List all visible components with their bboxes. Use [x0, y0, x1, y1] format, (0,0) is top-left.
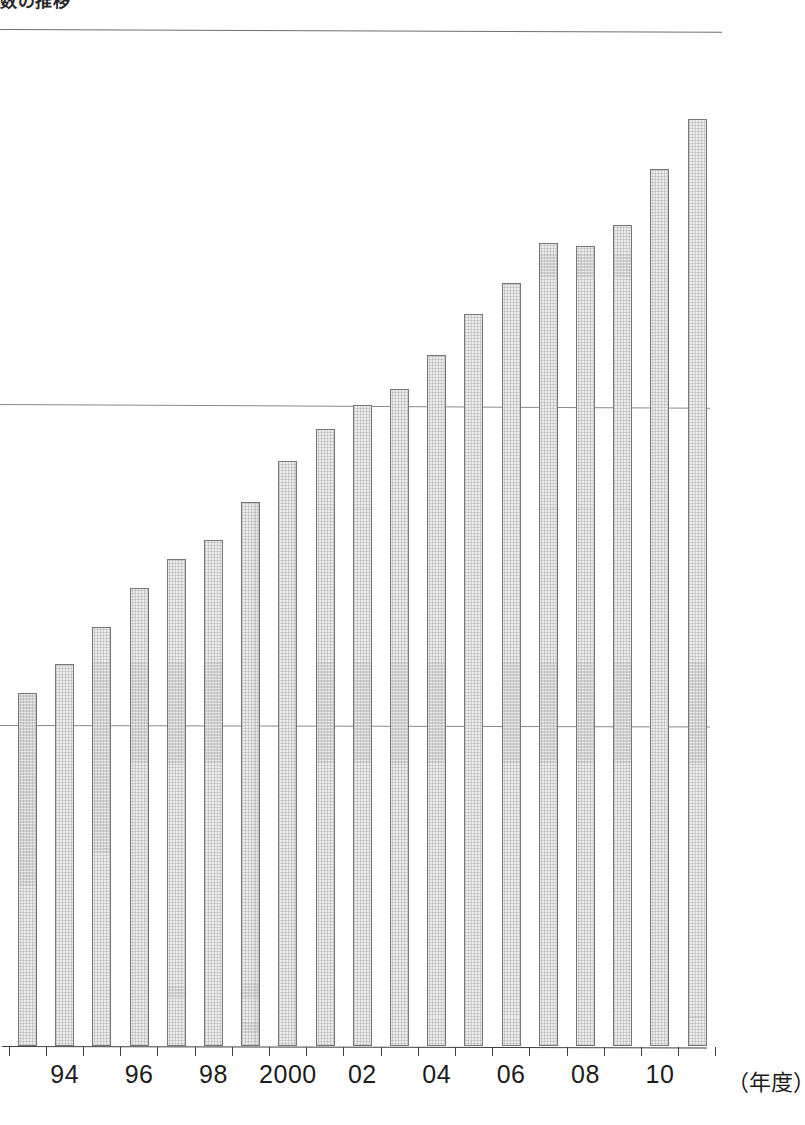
x-axis-tick [343, 1047, 344, 1056]
x-axis-tick [306, 1047, 307, 1056]
x-axis-label: 98 [199, 1060, 228, 1089]
x-axis-tick [195, 1047, 196, 1056]
chart-bar [167, 559, 186, 1046]
chart-bar [130, 588, 149, 1046]
chart-bar [464, 314, 483, 1046]
chart-bar [576, 246, 595, 1046]
chart-bar [688, 119, 707, 1046]
chart-plot-area: 94969820000204060810（年度） [0, 40, 760, 1048]
x-axis-tick [9, 1047, 10, 1056]
chart-bar [502, 283, 521, 1046]
chart-bar [390, 389, 409, 1046]
x-axis-tick [604, 1047, 605, 1056]
x-axis-tick [381, 1047, 382, 1056]
x-axis-label: 10 [645, 1060, 674, 1089]
x-axis-tick [46, 1047, 47, 1056]
x-axis-tick [120, 1047, 121, 1056]
x-axis-unit-label: （年度） [727, 1064, 805, 1096]
chart-bar [241, 502, 260, 1046]
x-axis-label: 02 [348, 1060, 377, 1089]
chart-bar [427, 355, 446, 1046]
chart-bar [539, 243, 558, 1046]
x-axis-tick [157, 1047, 158, 1056]
chart-bar [353, 405, 372, 1046]
chart-bar [278, 461, 297, 1046]
x-axis-label: 04 [422, 1060, 451, 1089]
x-axis-tick [567, 1047, 568, 1056]
x-axis-label: 06 [497, 1060, 526, 1089]
x-axis-label: 96 [125, 1060, 154, 1089]
x-axis-label: 2000 [259, 1060, 317, 1089]
chart-bar [204, 540, 223, 1046]
chart-bar [650, 169, 669, 1046]
x-axis-tick [492, 1047, 493, 1056]
x-axis-tick [232, 1047, 233, 1056]
x-axis-tick [641, 1047, 642, 1056]
x-axis-tick [529, 1047, 530, 1056]
x-axis-line [2, 1046, 707, 1049]
chart-bar [18, 693, 37, 1046]
chart-bar [613, 225, 632, 1046]
chart-bar [92, 627, 111, 1046]
x-axis-label: 08 [571, 1060, 600, 1089]
x-axis-tick [678, 1047, 679, 1056]
x-axis-tick [418, 1047, 419, 1056]
chart-bar [55, 664, 74, 1046]
x-axis-tick [455, 1047, 456, 1056]
chart-bar [316, 429, 335, 1046]
x-axis-tick [83, 1047, 84, 1056]
x-axis-tick [715, 1047, 716, 1056]
x-axis-tick [269, 1047, 270, 1056]
x-axis-label: 94 [50, 1060, 79, 1089]
